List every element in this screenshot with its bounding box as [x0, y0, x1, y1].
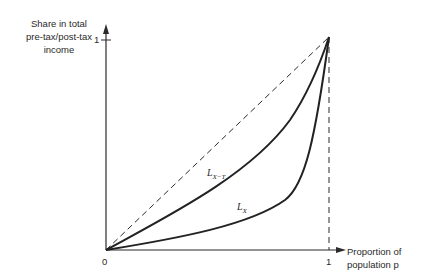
curve-lx-label: LX [237, 201, 247, 215]
lorenz-curve-plot [0, 0, 426, 273]
equality-line [106, 37, 329, 250]
x-axis-arrow-icon [336, 247, 346, 253]
y-axis-arrow-icon [103, 24, 109, 34]
curve-lxt-label: LX−T [207, 167, 225, 181]
